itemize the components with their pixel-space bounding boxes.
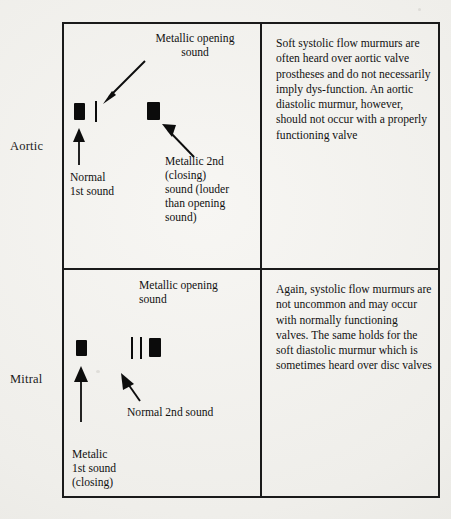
valve-sounds-table: Metallic opening sound — [62, 22, 440, 498]
mitral-first-sound-mark — [76, 340, 87, 356]
scan-speckle — [418, 8, 421, 11]
mitral-diagram-cell: Metallic opening sound — [64, 270, 260, 496]
aortic-second-sound-arrow — [162, 124, 194, 157]
mitral-second-sound-mark-a — [131, 337, 133, 359]
aortic-arrow-group — [64, 24, 260, 268]
aortic-diagram-cell: Metallic opening sound — [64, 24, 260, 268]
scanned-page: Aortic Mitral Metallic opening sound — [0, 0, 451, 519]
mitral-commentary-cell: Again, systolic flow murmurs are not unc… — [262, 270, 438, 496]
aortic-second-sound-caption: Metallic 2nd (closing) sound (louder tha… — [165, 155, 257, 225]
aortic-first-sound-arrow — [73, 128, 85, 165]
aortic-opening-sound-mark — [95, 101, 97, 122]
aortic-first-sound-caption: Normal 1st sound — [70, 171, 150, 199]
mitral-sound-diagram: Metallic opening sound — [64, 270, 260, 496]
aortic-commentary-cell: Soft systolic flow murmurs are often hea… — [262, 24, 438, 268]
aortic-opening-sound-caption: Metallic opening sound — [132, 32, 258, 60]
mitral-commentary-text: Again, systolic flow murmurs are not unc… — [276, 282, 432, 374]
mitral-opening-sound-mark — [149, 338, 161, 357]
row-label-mitral: Mitral — [10, 372, 60, 387]
aortic-second-sound-mark — [147, 102, 160, 120]
aortic-commentary-text: Soft systolic flow murmurs are often hea… — [276, 36, 432, 143]
mitral-second-sound-mark-b — [140, 337, 142, 359]
mitral-opening-sound-caption: Metallic opening sound — [139, 279, 259, 307]
mitral-first-sound-arrow — [74, 366, 88, 422]
row-label-aortic: Aortic — [10, 139, 60, 154]
mitral-first-sound-caption: Metalic 1st sound (closing) — [72, 448, 162, 490]
mitral-second-sound-arrow — [121, 373, 140, 401]
aortic-first-sound-mark — [74, 103, 85, 120]
aortic-sound-diagram: Metallic opening sound — [64, 24, 260, 268]
mitral-second-sound-caption: Normal 2nd sound — [127, 406, 257, 420]
aortic-opening-sound-arrow — [103, 61, 145, 104]
